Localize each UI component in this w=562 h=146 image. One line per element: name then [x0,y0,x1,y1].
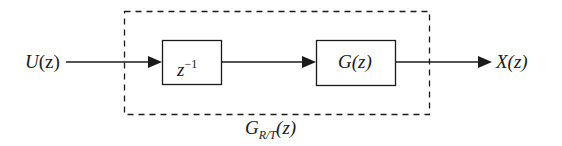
group-label-subscript: R/T [259,128,276,142]
plant-block-arg: (z) [352,51,372,72]
group-label-base: G [245,117,259,138]
plant-block-base: G [338,51,352,72]
group-label-arg: (z) [276,117,296,138]
output-label-arg: (z) [508,51,528,72]
group-label: GR/T(z) [245,118,296,145]
arrowhead-icon [302,56,316,68]
input-label: U(z) [25,52,60,72]
input-label-arg: (z) [39,51,60,72]
delay-block-superscript: −1 [184,57,197,71]
input-label-base: U [25,51,39,72]
output-label-base: X [496,51,508,72]
arrowhead-icon [478,56,492,68]
output-label: X(z) [496,52,528,72]
arrowhead-icon [148,56,162,68]
delay-block-label: z−1 [177,54,197,80]
plant-block-label: G(z) [338,52,372,72]
